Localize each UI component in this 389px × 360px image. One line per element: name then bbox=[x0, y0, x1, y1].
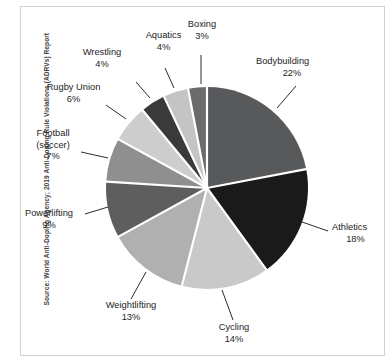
label-powerlifting-name: Powerlifting bbox=[13, 208, 85, 220]
label-boxing-pct: 3% bbox=[180, 31, 224, 43]
leader-line-athletics bbox=[302, 222, 328, 231]
label-boxing: Boxing 3% bbox=[180, 19, 224, 42]
leader-line-wrestling bbox=[136, 82, 150, 98]
label-football-pct: 7% bbox=[24, 151, 82, 163]
label-boxing-name: Boxing bbox=[180, 19, 224, 31]
label-athletics-pct: 18% bbox=[332, 234, 379, 246]
label-weightlifting: Weightlifting 13% bbox=[88, 300, 174, 323]
label-cycling: Cycling 14% bbox=[208, 322, 260, 345]
label-cycling-name: Cycling bbox=[208, 322, 260, 334]
label-rugby-union-name: Rugby Union bbox=[41, 82, 106, 94]
label-football-name-line1: Football bbox=[24, 128, 82, 140]
label-bodybuilding-pct: 22% bbox=[256, 68, 328, 80]
leader-line-cycling bbox=[222, 290, 233, 320]
label-cycling-pct: 14% bbox=[208, 334, 260, 346]
label-football-name-line2: (soccer) bbox=[24, 140, 82, 152]
label-wrestling: Wrestling 4% bbox=[73, 47, 131, 70]
leader-line-bodybuilding bbox=[277, 86, 296, 108]
label-aquatics-pct: 4% bbox=[137, 42, 190, 54]
label-wrestling-name: Wrestling bbox=[73, 47, 131, 59]
label-rugby-union: Rugby Union 6% bbox=[41, 82, 106, 105]
label-bodybuilding-name: Bodybuilding bbox=[256, 56, 328, 68]
pie-chart-svg bbox=[0, 0, 389, 360]
label-bodybuilding: Bodybuilding 22% bbox=[256, 56, 328, 79]
leader-line-aquatics bbox=[165, 68, 174, 88]
leader-line-rugby bbox=[106, 105, 126, 119]
label-athletics-name: Athletics bbox=[332, 222, 379, 234]
pie-chart: Bodybuilding 22% Athletics 18% Cycling 1… bbox=[0, 0, 389, 360]
label-weightlifting-pct: 13% bbox=[88, 312, 174, 324]
leader-line-weightlifting bbox=[131, 272, 146, 299]
chart-figure: Source: World Anti-Doping Agency; 2019 A… bbox=[0, 0, 389, 360]
label-wrestling-pct: 4% bbox=[73, 59, 131, 71]
label-rugby-union-pct: 6% bbox=[41, 94, 106, 106]
label-football: Football (soccer) 7% bbox=[24, 128, 82, 163]
leader-line-football bbox=[81, 152, 108, 158]
label-powerlifting-pct: 9% bbox=[13, 220, 85, 232]
label-athletics: Athletics 18% bbox=[332, 222, 379, 245]
label-powerlifting: Powerlifting 9% bbox=[13, 208, 85, 231]
leader-line-powerlifting bbox=[85, 207, 108, 214]
label-weightlifting-name: Weightlifting bbox=[88, 300, 174, 312]
